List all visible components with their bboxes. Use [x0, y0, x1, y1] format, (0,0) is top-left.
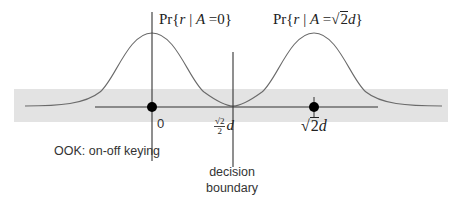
label-sqrt-value: 2: [340, 11, 349, 27]
numerator-value: 2: [220, 116, 225, 126]
label-cond: |: [299, 11, 310, 27]
constellation-point-sqrt2d: [309, 102, 319, 112]
axis-label-sqrt2d: √2d: [301, 117, 327, 135]
label-prefix: Pr{: [273, 11, 294, 27]
label-a: A: [310, 11, 319, 27]
mean-d: d: [319, 117, 327, 134]
label-value: 0: [217, 11, 225, 27]
label-prefix: Pr{: [159, 11, 180, 27]
threshold-d: d: [226, 117, 234, 133]
constellation-point-0: [147, 102, 157, 112]
axis-label-zero: 0: [157, 116, 164, 131]
mean-sqrt-value: 2: [310, 117, 319, 134]
label-suffix: }: [225, 11, 232, 27]
decision-boundary-line1: decision: [206, 164, 258, 180]
label-eq: =: [319, 11, 331, 27]
diagram-caption: OOK: on-off keying: [54, 144, 160, 158]
fraction-denominator: 2: [214, 127, 225, 136]
label-a: A: [196, 11, 205, 27]
label-cond: |: [185, 11, 196, 27]
pdf-label-a0: Pr{r | A =0}: [159, 11, 232, 28]
label-eq: =: [205, 11, 217, 27]
sqrt-icon: √: [331, 11, 339, 27]
pdf-label-a-sqrt2d: Pr{r | A =√2d}: [273, 11, 363, 28]
label-d: d: [348, 11, 356, 27]
decision-boundary-label: decision boundary: [206, 164, 258, 196]
label-suffix: }: [356, 11, 363, 27]
decision-boundary-line2: boundary: [206, 180, 258, 196]
ook-diagram: Pr{r | A =0} Pr{r | A =√2d} 0 √2 2 d √2d…: [0, 0, 451, 200]
sqrt-icon: √: [301, 117, 310, 134]
threshold-fraction: √2 2: [214, 117, 225, 136]
axis-label-threshold: √2 2 d: [214, 117, 234, 136]
